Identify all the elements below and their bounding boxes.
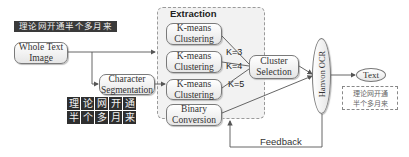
connector-arrows — [0, 0, 409, 157]
